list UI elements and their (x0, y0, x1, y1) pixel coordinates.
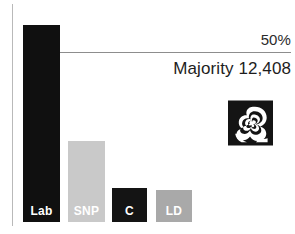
bar-label-ld: LD (156, 205, 192, 218)
bar-label-c: C (112, 205, 147, 218)
bar-c: C (112, 188, 147, 222)
bar-snp: SNP (68, 141, 105, 222)
bar-label-snp: SNP (68, 205, 105, 218)
bar-label-lab: Lab (23, 205, 60, 218)
bar-lab: Lab (23, 25, 60, 222)
bar-ld: LD (156, 190, 192, 222)
election-bar-chart: 50% Majority 12,408 Lab (0, 0, 295, 234)
bars-layer: Lab SNP C LD (0, 0, 295, 234)
